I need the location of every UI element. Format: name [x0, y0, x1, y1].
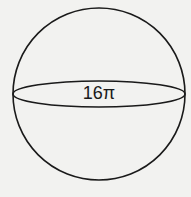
great-circle-label: 16π — [83, 83, 115, 103]
sphere-figure: 16π — [0, 0, 191, 197]
sphere-diagram: 16π — [0, 0, 191, 197]
